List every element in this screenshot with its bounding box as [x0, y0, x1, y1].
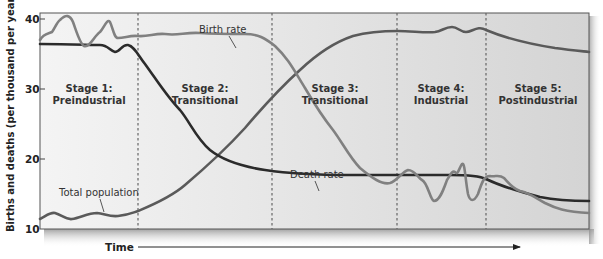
birth-rate-label: Birth rate [199, 24, 247, 35]
y-tick-10: 10 [25, 223, 40, 235]
total-population-label: Total population [58, 187, 139, 198]
y-axis-label: Births and deaths (per thousand per year… [5, 0, 16, 232]
stage-2-subtitle: Transitional [172, 95, 238, 106]
stage-1-subtitle: Preindustrial [52, 95, 125, 106]
y-tick-20: 20 [25, 153, 40, 165]
death-rate-label: Death rate [290, 169, 344, 180]
panel-shadow-right [589, 16, 601, 244]
stage-5-title: Stage 5: [514, 83, 561, 94]
stage-4-subtitle: Industrial [414, 95, 468, 106]
stage-2-title: Stage 2: [181, 83, 228, 94]
demographic-transition-chart: 40 30 20 10 Births and deaths (per thous… [0, 0, 603, 259]
x-axis-label: Time [105, 241, 134, 253]
stage-4-title: Stage 4: [417, 83, 464, 94]
y-tick-40: 40 [25, 13, 40, 25]
y-tick-30: 30 [25, 83, 40, 95]
stage-3-title: Stage 3: [311, 83, 358, 94]
stage-3-subtitle: Transitional [302, 95, 368, 106]
stage-5-subtitle: Postindustrial [498, 95, 577, 106]
stage-1-title: Stage 1: [65, 83, 112, 94]
